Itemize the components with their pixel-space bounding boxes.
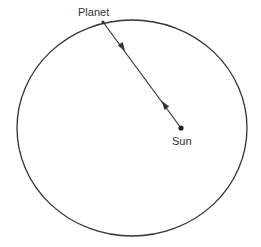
orbit-ellipse [17,20,247,236]
arrow-toward-planet-icon [162,101,169,110]
orbit-diagram [0,0,261,247]
radius-line [103,22,181,128]
sun-dot [178,125,183,130]
planet-dot [101,20,104,23]
sun-label: Sun [172,136,192,147]
planet-label: Planet [78,7,109,18]
